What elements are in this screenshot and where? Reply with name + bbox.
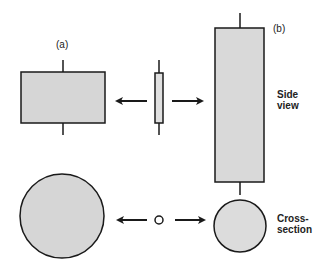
- label-side-view-line1: Side: [277, 89, 299, 100]
- shape-a-wide-rect: [21, 60, 105, 135]
- shape-center-thin-rect: [155, 60, 163, 135]
- cross-section-large-circle: [20, 174, 104, 258]
- diagram-canvas: (a) (b) Side view Cross- section: [0, 0, 333, 266]
- shape-b-tall-rect: [215, 13, 264, 195]
- cross-section-small-circle: [155, 216, 163, 224]
- label-a: (a): [56, 39, 68, 50]
- label-cross-section-line1: Cross-: [277, 213, 312, 224]
- label-cross-section-line2: section: [277, 224, 312, 235]
- label-b: (b): [273, 23, 285, 34]
- label-side-view-line2: view: [277, 100, 299, 111]
- cross-section-medium-circle: [214, 200, 266, 252]
- label-cross-section: Cross- section: [277, 213, 312, 235]
- label-side-view: Side view: [277, 89, 299, 111]
